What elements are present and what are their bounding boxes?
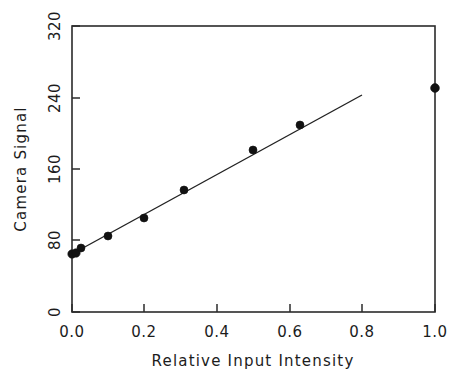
data-point <box>431 84 440 93</box>
y-tick-label-160: 160 <box>46 154 64 184</box>
y-axis-tick-labels: 0 80 160 240 320 <box>46 11 64 317</box>
y-tick-label-0: 0 <box>46 307 64 317</box>
data-point-group <box>68 84 440 259</box>
x-axis-title: Relative Input Intensity <box>152 352 355 370</box>
y-axis-ticks <box>72 26 80 312</box>
y-tick-label-320: 320 <box>46 11 64 41</box>
camera-signal-scatter-plot: 0 80 160 240 320 0.0 0.2 0.4 0.6 0.8 1.0… <box>0 0 466 389</box>
x-tick-label-0-4: 0.4 <box>204 323 229 341</box>
data-point <box>140 214 148 222</box>
data-point <box>180 186 188 194</box>
x-tick-label-0-2: 0.2 <box>131 323 156 341</box>
y-tick-label-80: 80 <box>46 230 64 250</box>
data-point <box>296 121 304 129</box>
data-point <box>249 146 257 154</box>
y-tick-label-240: 240 <box>46 83 64 113</box>
x-tick-label-0-8: 0.8 <box>349 323 374 341</box>
data-point <box>77 244 85 252</box>
x-axis-tick-labels: 0.0 0.2 0.4 0.6 0.8 1.0 <box>59 323 447 341</box>
x-tick-label-0-6: 0.6 <box>277 323 302 341</box>
linear-fit-line <box>72 95 362 254</box>
x-tick-label-1-0: 1.0 <box>422 323 447 341</box>
chart-figure: 0 80 160 240 320 0.0 0.2 0.4 0.6 0.8 1.0… <box>0 0 466 389</box>
x-tick-label-0-0: 0.0 <box>59 323 84 341</box>
y-axis-title: Camera Signal <box>12 106 30 231</box>
plot-frame <box>72 26 435 312</box>
x-axis-ticks <box>72 304 435 312</box>
data-point <box>104 232 112 240</box>
